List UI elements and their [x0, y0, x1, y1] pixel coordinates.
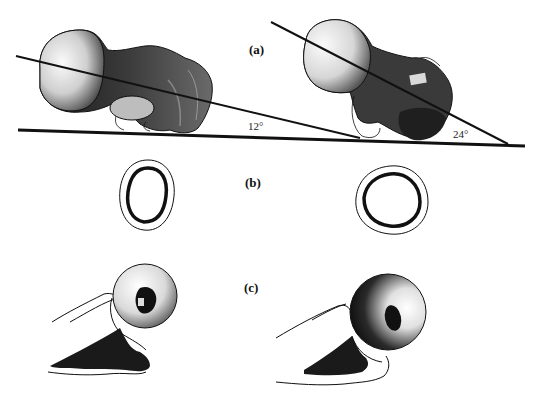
- panel-a: [16, 20, 525, 146]
- panel-c: [48, 264, 426, 385]
- right-angle-label: 24°: [453, 128, 468, 140]
- panel-b-label: (b): [245, 175, 261, 191]
- panel-c-label: (c): [244, 280, 258, 296]
- left-cross-section: [120, 160, 175, 230]
- panel-a-label: (a): [249, 42, 264, 58]
- right-cross-section: [356, 166, 428, 234]
- femur-anteversion-figure: [0, 0, 542, 402]
- left-head-view: [48, 264, 177, 375]
- panel-b: [120, 160, 428, 234]
- right-femur: [304, 20, 453, 141]
- left-angle-label: 12°: [248, 120, 263, 132]
- baseline: [18, 130, 525, 146]
- right-head-view: [276, 274, 426, 385]
